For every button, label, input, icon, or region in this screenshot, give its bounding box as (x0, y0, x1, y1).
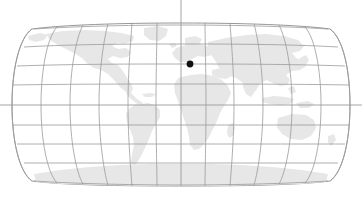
marker-group[interactable] (187, 61, 194, 68)
world-map-container (0, 0, 362, 199)
world-map-svg (0, 0, 362, 199)
location-marker-icon[interactable] (187, 61, 194, 68)
